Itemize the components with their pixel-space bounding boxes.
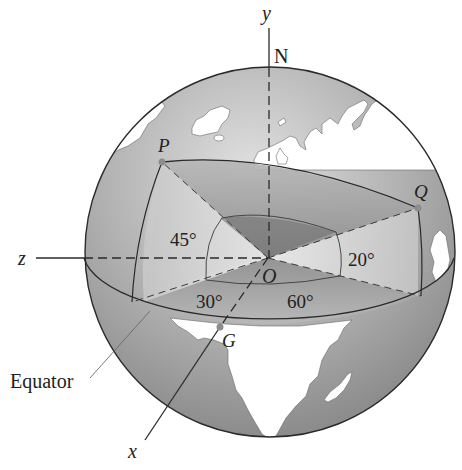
point-p: [159, 159, 166, 166]
angle-20-label: 20°: [348, 249, 375, 270]
globe-diagram: y N z x P Q O G 45° 20° 30° 60° Equator: [0, 0, 462, 470]
angle-60-label: 60°: [287, 291, 314, 312]
z-axis-label: z: [17, 247, 26, 269]
origin-label: O: [262, 265, 276, 287]
point-p-label: P: [157, 135, 170, 156]
angle-30-label: 30°: [196, 291, 223, 312]
landmass-iceland: [214, 135, 224, 141]
point-g-label: G: [222, 330, 236, 351]
y-axis-label: y: [260, 2, 271, 25]
point-q: [415, 205, 422, 212]
angle-45-label: 45°: [170, 229, 197, 250]
north-pole-label: N: [274, 45, 288, 67]
point-q-label: Q: [414, 181, 428, 202]
x-axis-label: x: [127, 440, 137, 462]
equator-label: Equator: [10, 370, 74, 393]
